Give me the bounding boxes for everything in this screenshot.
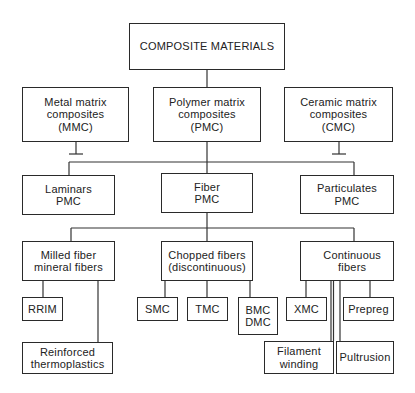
node-label: Chopped fibers (discontinuous) — [168, 249, 246, 274]
node-label: TMC — [195, 303, 219, 316]
node-laminars: Laminars PMC — [22, 175, 115, 215]
composite-materials-diagram: COMPOSITE MATERIALS Metal matrix composi… — [0, 0, 415, 393]
node-particulates: Particulates PMC — [300, 175, 394, 214]
node-label: Milled fiber mineral fibers — [34, 249, 103, 274]
node-label: Particulates PMC — [317, 182, 377, 207]
node-reinforced-thermoplastics: Reinforced thermoplastics — [22, 342, 113, 374]
node-label: Polymer matrix composites (PMC) — [169, 96, 245, 134]
node-pmc: Polymer matrix composites (PMC) — [153, 87, 261, 142]
node-fiber: Fiber PMC — [161, 173, 253, 213]
node-smc: SMC — [137, 297, 178, 321]
node-label: BMC DMC — [245, 304, 271, 329]
node-label: Fiber PMC — [194, 181, 220, 206]
node-label: Metal matrix composites (MMC) — [44, 96, 106, 134]
node-prepreg: Prepreg — [343, 297, 394, 321]
node-pultrusion: Pultrusion — [336, 341, 394, 374]
node-label: SMC — [145, 303, 170, 316]
node-rrim: RRIM — [22, 297, 63, 321]
node-label: RRIM — [28, 303, 57, 316]
node-label: Ceramic matrix composites (CMC) — [300, 96, 377, 134]
node-tmc: TMC — [187, 297, 228, 321]
node-label: Continuous fibers — [323, 249, 381, 274]
node-label: Laminars PMC — [45, 183, 92, 208]
node-label: Filament winding — [277, 345, 321, 370]
node-xmc: XMC — [286, 297, 327, 321]
node-bmc-dmc: BMC DMC — [238, 297, 278, 335]
node-cmc: Ceramic matrix composites (CMC) — [284, 87, 393, 142]
node-continuous: Continuous fibers — [300, 241, 394, 281]
node-mmc: Metal matrix composites (MMC) — [22, 87, 129, 142]
node-milled: Milled fiber mineral fibers — [22, 241, 115, 281]
node-label: Pultrusion — [340, 351, 391, 364]
node-label: Prepreg — [348, 303, 389, 316]
node-composite-materials: COMPOSITE MATERIALS — [129, 23, 285, 70]
node-label: Reinforced thermoplastics — [31, 346, 105, 371]
node-filament-winding: Filament winding — [264, 341, 334, 374]
node-label: COMPOSITE MATERIALS — [140, 40, 274, 53]
node-label: XMC — [294, 303, 319, 316]
node-chopped: Chopped fibers (discontinuous) — [161, 241, 253, 281]
